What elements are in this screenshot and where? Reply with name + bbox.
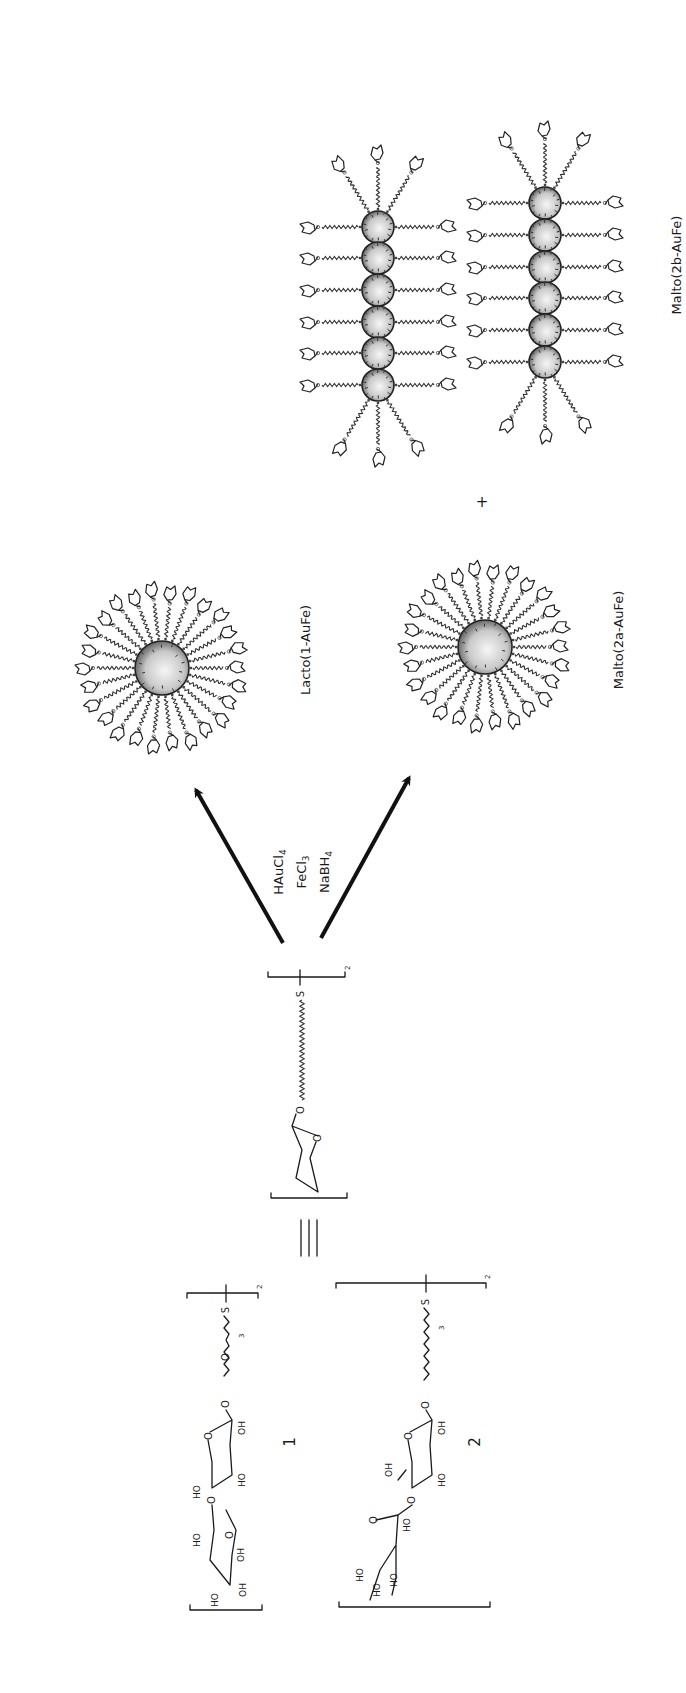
svg-text:NaBH4: NaBH4 — [317, 851, 334, 893]
malto-2a-nanoparticle — [398, 560, 571, 734]
arrow-to-lacto — [196, 790, 283, 943]
equivalence-symbol — [301, 1220, 317, 1256]
svg-text:HO: HO — [355, 1568, 365, 1582]
lacto-nanoparticle — [75, 581, 248, 755]
svg-text:OH: OH — [384, 1463, 394, 1477]
svg-text:HO: HO — [237, 1473, 247, 1487]
svg-text:O: O — [403, 1432, 414, 1440]
svg-text:2: 2 — [484, 1275, 492, 1279]
svg-text:HO: HO — [372, 1583, 382, 1597]
svg-text:O: O — [406, 1496, 417, 1504]
svg-text:O: O — [206, 1496, 217, 1504]
generic-ligand: 2 S O O — [268, 966, 352, 1198]
svg-text:O: O — [224, 1531, 235, 1539]
malto-2a-product-label: Malto(2a-AuFe) — [611, 591, 626, 690]
svg-text:OH: OH — [238, 1583, 248, 1597]
compound-1-label: 1 — [281, 1437, 299, 1447]
reagents: HAuCl4 FeCl3 NaBH4 — [271, 849, 334, 895]
reagent-nabh4: NaBH — [317, 857, 332, 893]
svg-text:OH: OH — [237, 1421, 247, 1435]
lacto-product-label: Lacto(1-AuFe) — [298, 605, 313, 695]
svg-text:2: 2 — [344, 966, 352, 970]
svg-text:HO: HO — [389, 1573, 399, 1587]
svg-text:HO: HO — [402, 1518, 412, 1532]
reaction-scheme: Lacto(1-AuFe) Malto(2a-AuFe) + Malto(2b-… — [0, 0, 686, 1693]
svg-text:OH: OH — [236, 1548, 246, 1562]
svg-text:HAuCl4: HAuCl4 — [271, 849, 288, 895]
nanoparticle-chain-2 — [467, 121, 623, 444]
svg-text:HO: HO — [210, 1593, 220, 1607]
svg-text:HO: HO — [192, 1485, 202, 1499]
compound-2-label: 2 — [466, 1437, 484, 1447]
nanoparticle-chain-1 — [300, 145, 456, 467]
svg-text:O: O — [203, 1432, 214, 1440]
svg-text:O: O — [312, 1134, 323, 1142]
svg-text:FeCl3: FeCl3 — [294, 855, 311, 888]
svg-text:3: 3 — [438, 1326, 446, 1330]
svg-text:S: S — [220, 1307, 231, 1313]
plus-sign: + — [476, 493, 489, 511]
svg-text:2: 2 — [256, 1285, 264, 1289]
svg-text:S: S — [420, 1299, 431, 1305]
arrow-to-malto — [321, 778, 409, 938]
svg-text:O: O — [220, 1400, 231, 1408]
svg-text:O: O — [295, 1106, 306, 1114]
reagent-haucl4: HAuCl — [271, 855, 286, 895]
reagent-fecl3: FeCl — [294, 861, 309, 888]
svg-text:OH: OH — [437, 1421, 447, 1435]
svg-text:O: O — [368, 1516, 379, 1524]
compound-1-structure: 2 S 3 O O OH HO O HO O HO O OH OH HO — [187, 1285, 264, 1610]
svg-text:HO: HO — [437, 1473, 447, 1487]
svg-text:O: O — [220, 1353, 231, 1361]
malto-2b-product-label: Malto(2b-AuFe) — [669, 216, 684, 315]
svg-text:HO: HO — [192, 1533, 202, 1547]
svg-text:S: S — [295, 991, 306, 997]
svg-text:3: 3 — [238, 1334, 246, 1338]
svg-text:O: O — [420, 1401, 431, 1409]
